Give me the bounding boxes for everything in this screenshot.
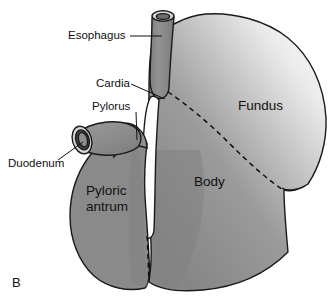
- esophagus-lumen: [156, 14, 169, 20]
- label-duodenum: Duodenum: [8, 157, 64, 169]
- label-pyloric-antrum-line2: antrum: [86, 199, 128, 214]
- label-cardia: Cardia: [96, 77, 130, 89]
- duodenum: [69, 122, 141, 156]
- panel-label: B: [12, 275, 21, 290]
- label-pyloric-antrum-line1: Pyloric: [86, 183, 127, 198]
- stomach-anatomy-figure: Esophagus Cardia Pylorus Duodenum Fundus…: [0, 0, 334, 299]
- label-esophagus: Esophagus: [68, 29, 126, 41]
- stomach-main-body: [145, 14, 326, 292]
- label-fundus: Fundus: [238, 98, 283, 113]
- label-body: Body: [194, 174, 225, 189]
- label-pylorus: Pylorus: [92, 100, 131, 112]
- stomach-diagram-svg: Esophagus Cardia Pylorus Duodenum Fundus…: [0, 0, 334, 299]
